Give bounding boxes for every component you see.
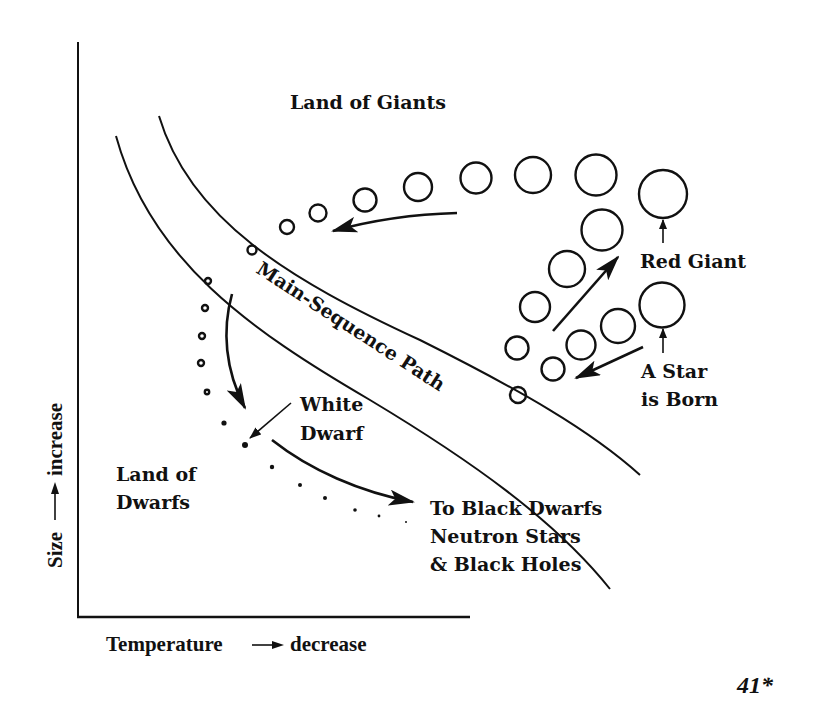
white-dwarf-label-line2: Dwarf — [300, 422, 365, 444]
star-born-label-line2: is Born — [641, 388, 718, 410]
land-of-dwarfs-label-line1: Land of — [116, 463, 198, 485]
main-sequence-path-label: Main-Sequence Path — [253, 257, 450, 395]
white-dwarf-label-line1: White — [299, 393, 363, 415]
main-sequence-lower-boundary — [116, 136, 610, 589]
pointer-white-dwarf — [250, 403, 291, 438]
x-axis-label: Temperature decrease — [106, 632, 367, 656]
y-axis-label: Size increase — [43, 403, 67, 568]
page-number: 41* — [736, 672, 774, 698]
red-giant-label: Red Giant — [640, 250, 746, 272]
end-states-label-line3: & Black Holes — [430, 553, 581, 575]
svg-text:Temperature: Temperature — [106, 632, 223, 656]
star-born-label-line1: A Star — [640, 360, 708, 382]
land-of-dwarfs-label-line2: Dwarfs — [116, 491, 190, 513]
arrow-giant-to-collapse — [333, 213, 457, 231]
svg-text:decrease: decrease — [290, 632, 367, 656]
stellar-evolution-diagram: Main-Sequence Path Land of Giants — [0, 0, 813, 716]
svg-text:increase: increase — [43, 403, 67, 476]
land-of-giants-label: Land of Giants — [290, 91, 446, 113]
arrow-white-dwarf-to-black — [272, 440, 413, 502]
giant-track-stars — [280, 155, 687, 235]
end-states-label-line1: To Black Dwarfs — [430, 497, 602, 519]
arrow-born-onto-main-sequence — [576, 347, 643, 378]
svg-text:Size: Size — [43, 532, 67, 568]
end-states-label-line2: Neutron Stars — [430, 525, 581, 547]
